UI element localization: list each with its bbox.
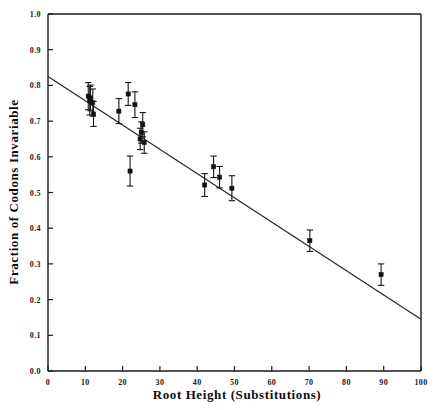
y-tick-label: 0.0	[30, 367, 41, 376]
marker-square	[117, 109, 121, 113]
plot-frame	[48, 14, 421, 371]
marker-square	[133, 103, 137, 107]
marker-square	[217, 175, 221, 179]
x-tick-label: 80	[342, 378, 351, 387]
marker-square	[138, 137, 142, 141]
y-tick-label: 0.2	[30, 296, 41, 305]
fit-line	[48, 76, 421, 319]
x-tick-label: 0	[46, 378, 50, 387]
y-tick-label: 0.1	[30, 331, 41, 340]
data-point	[116, 99, 122, 124]
marker-square	[142, 140, 146, 144]
marker-square	[379, 273, 383, 277]
x-tick-label: 30	[155, 378, 164, 387]
y-tick-label: 1.0	[30, 10, 41, 19]
y-tick-label: 0.6	[30, 153, 41, 162]
y-tick-label: 0.4	[30, 224, 41, 233]
marker-square	[126, 92, 130, 96]
y-tick-label: 0.7	[30, 117, 41, 126]
scatter-plot: 0.00.10.20.30.40.50.60.70.80.91.00102030…	[0, 0, 440, 410]
data-points-group	[85, 83, 384, 286]
marker-square	[308, 239, 312, 243]
x-tick-label: 70	[305, 378, 314, 387]
marker-square	[91, 112, 95, 116]
x-tick-label: 90	[379, 378, 388, 387]
x-tick-label: 100	[414, 378, 427, 387]
x-tick-label: 20	[118, 378, 127, 387]
data-point	[125, 83, 131, 106]
marker-square	[128, 169, 132, 173]
x-tick-label: 60	[267, 378, 276, 387]
data-point	[132, 92, 138, 118]
data-point	[127, 156, 133, 186]
y-axis-title: Fraction of Codons Invariable	[6, 99, 21, 284]
marker-square	[203, 183, 207, 187]
y-tick-label: 0.5	[30, 189, 41, 198]
marker-square	[212, 165, 216, 169]
chart-page: 0.00.10.20.30.40.50.60.70.80.91.00102030…	[0, 0, 440, 410]
y-tick-label: 0.8	[30, 81, 41, 90]
x-axis-title: Root Height (Substitutions)	[153, 387, 322, 402]
x-tick-label: 40	[193, 378, 202, 387]
data-point	[210, 156, 216, 177]
data-point	[378, 264, 384, 285]
axis-ticks-group: 0.00.10.20.30.40.50.60.70.80.91.00102030…	[30, 10, 428, 387]
regression-line	[48, 76, 421, 319]
marker-square	[230, 186, 234, 190]
x-tick-label: 10	[81, 378, 90, 387]
y-tick-label: 0.3	[30, 260, 41, 269]
data-point	[216, 166, 222, 187]
x-tick-label: 50	[230, 378, 239, 387]
y-tick-label: 0.9	[30, 46, 41, 55]
